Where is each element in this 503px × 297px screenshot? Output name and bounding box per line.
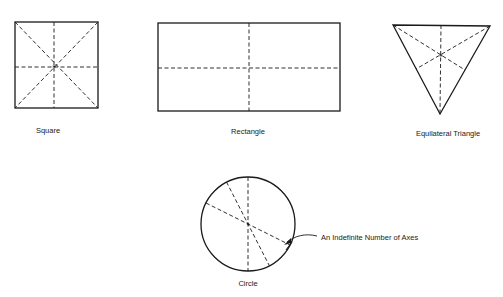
circle-label: Circle xyxy=(238,279,257,288)
triangle-median-axis xyxy=(416,26,490,69)
circle-figure: * Circle xyxy=(201,177,295,288)
symmetry-axes-diagram: * Square Rectangle * Equilateral Triangl… xyxy=(0,0,503,297)
triangle-label: Equilateral Triangle xyxy=(416,129,480,138)
annotation-text: An Indefinite Number of Axes xyxy=(321,233,418,242)
rectangle-label: Rectangle xyxy=(231,127,265,136)
triangle-median-axis xyxy=(393,25,465,70)
square-center-mark: * xyxy=(52,64,56,72)
square-figure: * Square xyxy=(15,22,98,135)
square-diagonal-axis xyxy=(15,22,98,108)
triangle-figure: * Equilateral Triangle xyxy=(393,25,490,138)
rectangle-figure: Rectangle xyxy=(158,23,340,136)
square-label: Square xyxy=(36,126,60,135)
triangle-vertical-axis xyxy=(440,25,441,114)
annotation: An Indefinite Number of Axes xyxy=(284,233,418,245)
circle-center-mark: * xyxy=(247,221,250,228)
triangle-outline xyxy=(393,25,490,114)
triangle-center-mark: * xyxy=(439,53,443,61)
